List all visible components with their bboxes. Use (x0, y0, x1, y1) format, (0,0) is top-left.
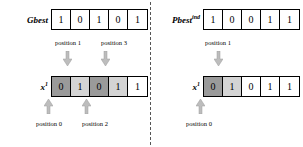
pbest-cells: 1 0 0 1 1 (203, 9, 300, 30)
left-x1-cell-1: 1 (71, 77, 90, 96)
right-x1-label-superscript: 1 (197, 81, 200, 87)
left-x1-cell-0: 0 (52, 77, 71, 96)
right-x1-cell-3: 1 (261, 77, 280, 96)
left-x1-label-superscript: 1 (45, 81, 48, 87)
pso-position-update-figure: Gbest 1 0 1 0 1 position 1 position 3 (0, 0, 303, 147)
right-arrow-up-position-0 (196, 99, 205, 114)
right-top-position-label-1: position 1 (196, 39, 240, 46)
left-x1-label: x1 (8, 81, 51, 92)
pbest-vector-row: Pbestind 1 0 0 1 1 (156, 9, 300, 30)
gbest-label: Gbest (8, 15, 51, 25)
pbest-cell-1: 0 (223, 10, 242, 29)
gbest-cell-3: 0 (109, 10, 128, 29)
left-bottom-position-label-2: position 2 (73, 120, 117, 127)
left-x1-cell-2: 0 (90, 77, 109, 96)
right-x1-label: x1 (160, 81, 203, 92)
left-top-position-label-3: position 3 (92, 39, 136, 46)
right-x1-cells: 0 1 0 1 1 (203, 76, 300, 97)
left-arrow-up-position-0 (44, 99, 53, 114)
panel-divider (150, 2, 151, 145)
gbest-cells: 1 0 1 0 1 (51, 9, 148, 30)
pbest-label-text: Pbest (172, 15, 192, 25)
pbest-label: Pbestind (156, 14, 203, 25)
left-arrow-up-position-2 (82, 99, 91, 114)
gbest-cell-0: 1 (52, 10, 71, 29)
left-x1-cell-3: 1 (109, 77, 128, 96)
right-x1-vector-row: x1 0 1 0 1 1 (160, 76, 300, 97)
pbest-panel: Pbestind 1 0 0 1 1 position 1 x1 0 (152, 0, 303, 147)
left-x1-cells: 0 1 0 1 1 (51, 76, 148, 97)
gbest-label-text: Gbest (27, 15, 48, 25)
right-x1-cell-0: 0 (204, 77, 223, 96)
pbest-cell-3: 1 (261, 10, 280, 29)
left-top-position-label-1: position 1 (46, 39, 90, 46)
left-arrow-down-position-1 (63, 51, 72, 66)
left-arrow-down-position-3 (101, 51, 110, 66)
gbest-cell-2: 1 (90, 10, 109, 29)
right-x1-cell-2: 0 (242, 77, 261, 96)
pbest-cell-0: 1 (204, 10, 223, 29)
right-arrow-down-position-1 (214, 51, 223, 66)
gbest-cell-4: 1 (128, 10, 147, 29)
right-x1-cell-1: 1 (223, 77, 242, 96)
pbest-cell-2: 0 (242, 10, 261, 29)
gbest-vector-row: Gbest 1 0 1 0 1 (8, 9, 148, 30)
gbest-cell-1: 0 (71, 10, 90, 29)
pbest-cell-4: 1 (280, 10, 299, 29)
gbest-panel: Gbest 1 0 1 0 1 position 1 position 3 (0, 0, 150, 147)
pbest-label-superscript: ind (192, 14, 200, 20)
right-bottom-position-label-0: position 0 (177, 120, 221, 127)
right-x1-cell-4: 1 (280, 77, 299, 96)
left-bottom-position-label-0: position 0 (27, 120, 71, 127)
left-x1-cell-4: 1 (128, 77, 147, 96)
left-x1-vector-row: x1 0 1 0 1 1 (8, 76, 148, 97)
